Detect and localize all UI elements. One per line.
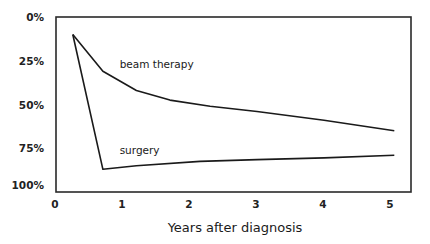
y-tick-label: 0% xyxy=(26,11,44,23)
x-tick-label: 4 xyxy=(319,198,326,210)
x-axis-ticks: 012345 xyxy=(51,198,393,210)
surgery-label: surgery xyxy=(120,144,160,156)
series-labels: beam therapysurgery xyxy=(120,58,194,156)
y-tick-label: 50% xyxy=(19,99,45,111)
line-chart: 0%25%50%75%100% 012345 beam therapysurge… xyxy=(0,0,430,244)
beam-therapy-label: beam therapy xyxy=(120,58,194,70)
beam-therapy-line xyxy=(73,35,395,131)
x-tick-label: 5 xyxy=(386,198,393,210)
x-tick-label: 3 xyxy=(252,198,259,210)
x-tick-label: 1 xyxy=(118,198,125,210)
y-tick-label: 25% xyxy=(19,55,45,67)
y-axis-ticks: 0%25%50%75%100% xyxy=(12,11,45,191)
x-axis-title: Years after diagnosis xyxy=(167,220,303,235)
y-tick-label: 100% xyxy=(12,179,45,191)
x-tick-label: 2 xyxy=(185,198,192,210)
x-tick-label: 0 xyxy=(51,198,58,210)
y-tick-label: 75% xyxy=(19,142,45,154)
plot-frame xyxy=(56,17,411,192)
